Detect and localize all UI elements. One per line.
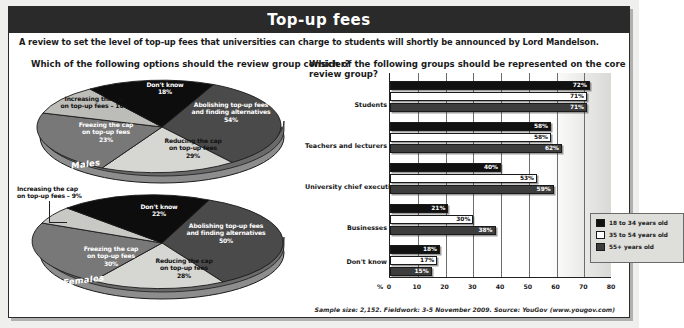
bar-executives-55plus: 59% (390, 185, 554, 194)
bar-dontknow-35to54: 17% (390, 256, 437, 265)
bar-executives-18to34: 40% (390, 163, 501, 172)
legend-label-18to34: 18 to 34 years old (609, 220, 668, 226)
pie-chart-males: Abolishing top-up fees and finding alter… (27, 75, 297, 185)
legend-item-35to54: 35 to 54 years old (596, 231, 678, 239)
intro-text: A review to set the level of top-up fees… (19, 37, 619, 47)
xtick-80: 80 (607, 283, 616, 290)
question-left: Which of the following options should th… (31, 59, 350, 69)
xtick-20: 20 (440, 283, 449, 290)
bar-businesses-18to34: 21% (390, 204, 448, 213)
legend-swatch-icon-55plus (596, 243, 605, 251)
bar-businesses-55plus: 38% (390, 226, 496, 235)
bar-students-35to54: 71% (390, 92, 587, 101)
bar-plot-area: 72% 71% 71% 58% 58% 62% 40% 53% (389, 73, 611, 278)
x-axis: 0 10 20 30 40 50 60 70 80 (389, 279, 611, 295)
axis-percent-sign: % (377, 283, 383, 290)
bar-teachers-18to34: 58% (390, 122, 551, 131)
bar-students-18to34: 72% (390, 81, 590, 90)
legend-swatch-icon-35to54 (596, 231, 605, 239)
legend-item-55plus: 55+ years old (596, 243, 678, 251)
bar-category-executives: University chief executives (305, 183, 389, 191)
page-title: Top-up fees (267, 11, 370, 29)
pie-males-svg (27, 75, 297, 185)
bar-chart: Students Teachers and lecturers Universi… (305, 73, 623, 305)
xtick-60: 60 (551, 283, 560, 290)
leader-line-increasing (49, 201, 67, 223)
xtick-30: 30 (468, 283, 477, 290)
xtick-0: 0 (387, 283, 391, 290)
bar-teachers-35to54: 58% (390, 133, 551, 142)
bar-category-businesses: Businesses (305, 224, 387, 232)
legend-label-35to54: 35 to 54 years old (609, 232, 668, 238)
xtick-40: 40 (496, 283, 505, 290)
pie-chart-females: Abolishing top-up fees and finding alter… (27, 189, 297, 301)
xtick-10: 10 (412, 283, 421, 290)
infographic-card: Top-up fees A review to set the level of… (8, 6, 630, 318)
chart-legend: 18 to 34 years old 35 to 54 years old 55… (590, 213, 684, 263)
header-bar: Top-up fees (9, 7, 629, 33)
xtick-50: 50 (523, 283, 532, 290)
legend-label-55plus: 55+ years old (609, 244, 654, 250)
bar-category-teachers: Teachers and lecturers (305, 142, 387, 150)
legend-item-18to34: 18 to 34 years old (596, 219, 678, 227)
bar-teachers-55plus: 62% (390, 144, 562, 153)
bar-dontknow-55plus: 15% (390, 267, 432, 276)
legend-swatch-icon-18to34 (596, 219, 605, 227)
source-footnote: Sample size: 2,152. Fieldwork: 3-5 Novem… (315, 306, 615, 313)
bar-dontknow-18to34: 18% (390, 245, 440, 254)
bar-category-dontknow: Don't know (305, 258, 387, 266)
bar-executives-35to54: 53% (390, 174, 537, 183)
xtick-70: 70 (579, 283, 588, 290)
bar-students-55plus: 71% (390, 103, 587, 112)
bar-category-students: Students (305, 101, 387, 109)
bar-businesses-35to54: 30% (390, 215, 473, 224)
